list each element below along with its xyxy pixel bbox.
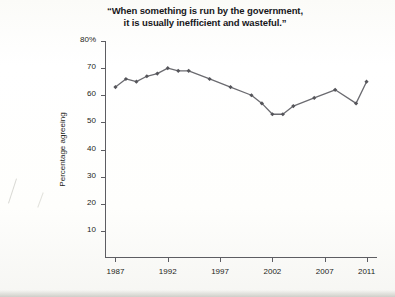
data-point-marker bbox=[312, 96, 316, 100]
y-axis-tick-label: 30 bbox=[87, 171, 96, 180]
data-point-marker bbox=[208, 77, 212, 81]
data-point-marker bbox=[176, 69, 180, 73]
y-axis-title: Percentage agreeing bbox=[58, 41, 70, 258]
data-series-line bbox=[105, 41, 377, 258]
x-axis-tick: 2011 bbox=[367, 258, 368, 262]
chart-title: “When something is run by the government… bbox=[60, 5, 350, 28]
x-axis-tick-label: 2011 bbox=[358, 267, 375, 276]
x-axis-tick-label: 2002 bbox=[263, 267, 281, 276]
y-axis-tick-label: 50 bbox=[87, 116, 96, 125]
y-axis-tick-label: 40 bbox=[87, 144, 96, 153]
y-axis-tick-label: 60 bbox=[87, 89, 96, 98]
chart-title-line-2: it is usually inefficient and wasteful.” bbox=[60, 17, 350, 29]
x-axis-tick: 1992 bbox=[168, 258, 169, 262]
x-axis-tick-label: 1992 bbox=[159, 267, 177, 276]
data-point-marker bbox=[187, 69, 191, 73]
y-axis-tick-label: 10 bbox=[87, 225, 96, 234]
y-axis-tick-label: 70 bbox=[87, 62, 96, 71]
scan-artifact-mark bbox=[37, 192, 43, 207]
scan-artifact-mark bbox=[8, 178, 17, 203]
y-axis-tick-label: 20 bbox=[87, 198, 96, 207]
scan-page-edge-shadow bbox=[0, 290, 395, 297]
x-axis-tick-label: 1987 bbox=[107, 267, 125, 276]
x-axis-tick-label: 1997 bbox=[211, 267, 229, 276]
x-axis-tick: 2002 bbox=[272, 258, 273, 262]
x-axis-tick: 1987 bbox=[115, 258, 116, 262]
x-axis-tick-label: 2007 bbox=[316, 267, 334, 276]
data-point-marker bbox=[228, 85, 232, 89]
y-axis-tick-label: 80% bbox=[80, 35, 96, 44]
series-polyline bbox=[115, 68, 366, 114]
plot-area: 1020304050607080% 1987199219972002200720… bbox=[105, 41, 377, 258]
x-axis-tick: 2007 bbox=[325, 258, 326, 262]
chart-page: “When something is run by the government… bbox=[0, 0, 395, 297]
x-axis-tick: 1997 bbox=[220, 258, 221, 262]
chart-title-line-1: “When something is run by the government… bbox=[60, 5, 350, 17]
data-point-marker bbox=[364, 80, 368, 84]
